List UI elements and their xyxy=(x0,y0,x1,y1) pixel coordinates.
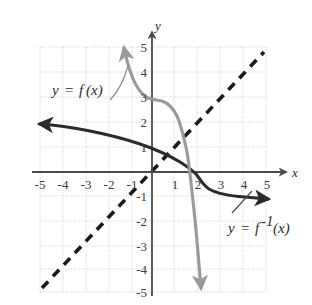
y-tick-label: -2 xyxy=(136,214,147,229)
x-tick-label: -2 xyxy=(104,177,115,192)
y-tick-label: 5 xyxy=(141,40,148,55)
x-tick-label: 3 xyxy=(218,177,225,192)
x-tick-label: 5 xyxy=(264,177,271,192)
finv-label-arg: (x) xyxy=(273,220,290,237)
finv-label-equals: = xyxy=(240,220,250,236)
y-tick-label: 3 xyxy=(141,90,148,105)
x-tick-label: 2 xyxy=(195,177,202,192)
x-axis-label: x xyxy=(291,165,298,180)
figure-background xyxy=(0,0,312,305)
f-label-arg: (x) xyxy=(86,82,103,99)
finv-label-y: y xyxy=(226,220,235,236)
y-tick-label: -5 xyxy=(136,285,147,300)
inverse-function-graph: -5 -4 -3 -2 -1 1 2 3 4 5 5 4 3 2 1 -1 -2… xyxy=(0,0,312,305)
x-tick-label: 4 xyxy=(241,177,248,192)
y-tick-label: -4 xyxy=(136,262,147,277)
y-axis-label: y xyxy=(153,18,161,33)
x-tick-label: -3 xyxy=(81,177,92,192)
x-tick-label: -5 xyxy=(35,177,46,192)
y-tick-label: 4 xyxy=(141,65,148,80)
x-tick-label: -4 xyxy=(58,177,69,192)
y-tick-label: -1 xyxy=(136,189,147,204)
y-tick-label: 2 xyxy=(141,115,148,130)
x-tick-label: 1 xyxy=(172,177,179,192)
y-tick-label: 1 xyxy=(141,140,148,155)
y-tick-label: -3 xyxy=(136,239,147,254)
finv-label-superscript: -1 xyxy=(261,213,274,229)
f-label-y: y xyxy=(50,82,59,98)
f-label-equals: = xyxy=(64,82,74,98)
